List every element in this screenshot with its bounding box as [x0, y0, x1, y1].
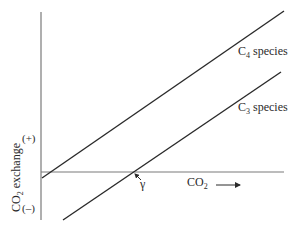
c4-species-label: C4 species: [238, 44, 288, 60]
positive-marker: (+): [22, 132, 36, 145]
negative-marker: (–): [22, 202, 35, 215]
co2-exchange-diagram: C4 species C3 species γ CO2 (+) (–) CO2 …: [0, 0, 296, 227]
gamma-symbol: γ: [139, 177, 146, 191]
y-axis-label: CO2 exchange: [9, 143, 25, 212]
c3-species-line: [63, 72, 281, 220]
x-axis-label: CO2: [187, 175, 208, 191]
c3-species-label: C3 species: [238, 100, 288, 116]
